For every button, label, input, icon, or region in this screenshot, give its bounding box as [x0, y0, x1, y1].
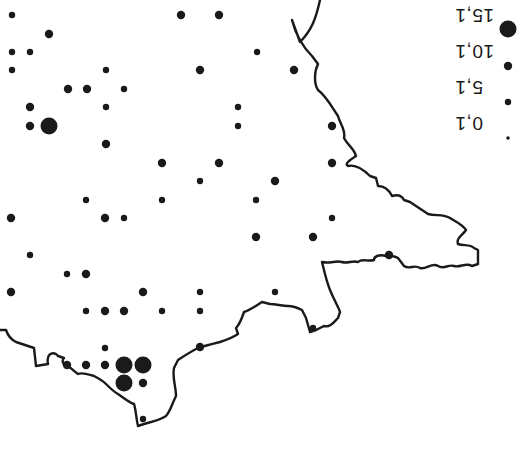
legend-symbol — [504, 62, 512, 70]
data-point — [121, 215, 127, 221]
data-point — [197, 178, 203, 184]
data-point — [328, 122, 336, 130]
data-point — [254, 49, 260, 55]
legend-symbol — [506, 136, 510, 140]
data-point — [253, 197, 259, 203]
data-point — [45, 30, 53, 38]
data-point — [116, 375, 133, 392]
data-point — [177, 11, 185, 19]
data-point — [9, 12, 15, 18]
data-point — [197, 289, 203, 295]
legend-symbol — [505, 99, 511, 105]
data-point — [102, 140, 110, 148]
data-point — [64, 271, 70, 277]
data-point — [82, 270, 90, 278]
data-point — [83, 197, 89, 203]
data-point — [159, 197, 165, 203]
data-point — [328, 159, 336, 167]
data-point — [101, 361, 109, 369]
data-point — [290, 66, 298, 74]
data-point — [272, 289, 278, 295]
data-point — [82, 361, 90, 369]
data-point — [102, 345, 108, 351]
data-point — [83, 308, 89, 314]
data-point — [7, 288, 15, 296]
data-point — [26, 103, 34, 111]
legend-label: 5,1 — [455, 76, 483, 98]
data-point — [159, 308, 165, 314]
data-point — [64, 85, 72, 93]
data-point — [83, 85, 91, 93]
data-point — [9, 67, 15, 73]
legend-symbols — [500, 21, 517, 140]
data-point — [196, 343, 204, 351]
data-point — [235, 104, 241, 110]
map-canvas — [0, 0, 532, 455]
data-point — [329, 215, 335, 221]
data-point — [215, 159, 223, 167]
proportional-symbol-map: 15,110,15,10,1 — [0, 0, 532, 455]
data-point — [309, 233, 317, 241]
data-points-layer — [7, 11, 393, 422]
legend-label: 10,1 — [455, 40, 494, 62]
legend-label: 0,1 — [455, 112, 483, 134]
data-point — [140, 416, 146, 422]
data-point — [103, 104, 109, 110]
data-point — [139, 288, 147, 296]
data-point — [41, 118, 58, 135]
data-point — [9, 49, 15, 55]
data-point — [139, 379, 147, 387]
data-point — [7, 214, 15, 222]
data-point — [63, 361, 71, 369]
data-point — [116, 357, 133, 374]
data-point — [121, 86, 127, 92]
data-point — [252, 233, 260, 241]
data-point — [103, 67, 109, 73]
data-point — [385, 251, 393, 259]
data-point — [101, 307, 109, 315]
data-point — [101, 214, 109, 222]
data-point — [196, 66, 204, 74]
legend-symbol — [500, 21, 517, 38]
data-point — [310, 325, 316, 331]
coastline-outline — [0, 0, 478, 426]
data-point — [158, 159, 166, 167]
legend-label: 15,1 — [455, 4, 494, 26]
data-point — [27, 49, 33, 55]
data-point — [271, 177, 279, 185]
data-point — [215, 11, 223, 19]
data-point — [120, 307, 128, 315]
data-point — [197, 308, 203, 314]
data-point — [235, 123, 241, 129]
data-point — [26, 122, 34, 130]
data-point — [27, 252, 33, 258]
data-point — [135, 357, 152, 374]
